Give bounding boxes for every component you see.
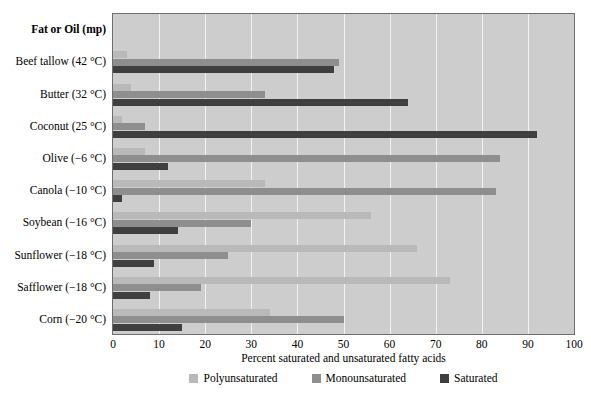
legend-swatch-icon-monounsaturated	[312, 374, 321, 383]
x-tick-label-50: 50	[324, 337, 364, 351]
x-axis-title: Percent saturated and unsaturated fatty …	[112, 352, 575, 364]
bar-polyunsaturated-0	[113, 51, 127, 58]
gridline-50	[344, 14, 345, 334]
bar-saturated-1	[113, 99, 408, 106]
category-label-8: Corn (−20 °C)	[39, 313, 106, 325]
bar-polyunsaturated-2	[113, 116, 122, 123]
bar-monounsaturated-2	[113, 123, 145, 130]
gridline-100	[574, 14, 575, 334]
bar-monounsaturated-1	[113, 91, 265, 98]
bar-polyunsaturated-3	[113, 148, 145, 155]
bar-saturated-5	[113, 227, 178, 234]
legend-item-monounsaturated[interactable]: Monounsaturated	[312, 372, 406, 384]
category-label-5: Soybean (−16 °C)	[23, 216, 106, 228]
bar-saturated-2	[113, 131, 537, 138]
plot-area	[112, 13, 575, 335]
legend: PolyunsaturatedMonounsaturatedSaturated	[112, 370, 575, 386]
x-tick-label-30: 30	[231, 337, 271, 351]
legend-label-polyunsaturated: Polyunsaturated	[203, 372, 277, 384]
gridline-70	[436, 14, 437, 334]
x-tick-label-40: 40	[277, 337, 317, 351]
gridline-90	[528, 14, 529, 334]
legend-item-polyunsaturated[interactable]: Polyunsaturated	[189, 372, 277, 384]
category-axis-labels: Fat or Oil (mp)Beef tallow (42 °C)Butter…	[0, 13, 110, 335]
gridline-60	[390, 14, 391, 334]
category-label-4: Canola (−10 °C)	[30, 184, 106, 196]
bar-saturated-0	[113, 66, 334, 73]
category-label-0: Beef tallow (42 °C)	[15, 55, 106, 67]
legend-item-saturated[interactable]: Saturated	[440, 372, 497, 384]
x-tick-label-100: 100	[554, 337, 591, 351]
x-tick-label-80: 80	[462, 337, 502, 351]
category-label-3: Olive (−6 °C)	[43, 152, 106, 164]
bar-polyunsaturated-6	[113, 245, 417, 252]
bar-monounsaturated-6	[113, 252, 228, 259]
category-label-2: Coconut (25 °C)	[30, 120, 106, 132]
bar-monounsaturated-0	[113, 59, 339, 66]
x-tick-label-90: 90	[508, 337, 548, 351]
bar-polyunsaturated-5	[113, 212, 371, 219]
bar-monounsaturated-4	[113, 188, 496, 195]
bar-monounsaturated-3	[113, 155, 500, 162]
category-label-7: Safflower (−18 °C)	[17, 281, 106, 293]
x-tick-label-70: 70	[416, 337, 456, 351]
x-axis-ticks: 0102030405060708090100	[0, 337, 591, 353]
fatty-acid-bar-chart: Fat or Oil (mp)Beef tallow (42 °C)Butter…	[0, 0, 591, 401]
bar-saturated-6	[113, 260, 154, 267]
bar-polyunsaturated-4	[113, 180, 265, 187]
legend-label-monounsaturated: Monounsaturated	[326, 372, 406, 384]
bar-polyunsaturated-1	[113, 84, 131, 91]
x-tick-label-0: 0	[93, 337, 133, 351]
x-tick-label-20: 20	[185, 337, 225, 351]
bar-saturated-3	[113, 163, 168, 170]
gridline-80	[482, 14, 483, 334]
bar-monounsaturated-7	[113, 284, 201, 291]
bar-saturated-8	[113, 324, 182, 331]
bar-polyunsaturated-7	[113, 277, 450, 284]
legend-label-saturated: Saturated	[454, 372, 497, 384]
x-tick-label-60: 60	[370, 337, 410, 351]
legend-swatch-icon-saturated	[440, 374, 449, 383]
bar-saturated-4	[113, 195, 122, 202]
x-tick-label-10: 10	[139, 337, 179, 351]
category-label-6: Sunflower (−18 °C)	[14, 249, 106, 261]
legend-swatch-icon-polyunsaturated	[189, 374, 198, 383]
category-axis-header: Fat or Oil (mp)	[31, 23, 106, 35]
bar-monounsaturated-5	[113, 220, 251, 227]
bar-saturated-7	[113, 292, 150, 299]
category-label-1: Butter (32 °C)	[40, 88, 106, 100]
bar-polyunsaturated-8	[113, 309, 270, 316]
bar-monounsaturated-8	[113, 316, 344, 323]
